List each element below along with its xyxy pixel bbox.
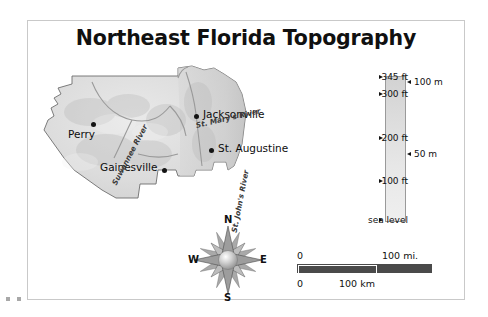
scale-km-end: 100 km [339,278,375,289]
legend-tickmark-300ft [379,92,383,96]
scale-km-start: 0 [297,278,303,289]
city-label-perry: Perry [68,128,95,140]
compass-star [194,226,262,294]
legend-tickmark-345ft [379,75,383,79]
scale-miles-start: 0 [297,250,303,261]
legend-tick-sea-level: sea level [368,215,408,225]
corner-dot-left [6,297,10,301]
legend-tick-345ft: 345 ft [381,72,408,82]
compass-label-east: E [260,254,267,265]
legend-tickmark-200ft [379,136,383,140]
legend-tick-200ft: 200 ft [381,133,408,143]
scale-bar-km [298,265,377,276]
compass-rose: N S E W [186,208,270,308]
city-dot-gainesville [162,168,167,173]
legend-tick-100m: 100 m [414,77,443,87]
legend-tickmark-100ft [379,179,383,183]
city-dot-jacksonville [194,114,199,119]
city-dot-st-augustine [209,148,214,153]
topographic-map: Perry Gainesville Jacksonville St. Augus… [28,58,278,218]
corner-dot-right [17,297,21,301]
city-dot-perry [91,122,96,127]
legend-tickmark-sea-level [379,218,383,222]
compass-label-south: S [224,292,231,303]
legend-tickmark-50m [407,152,411,156]
page-title: Northeast Florida Topography [27,26,465,50]
legend-tick-300ft: 300 ft [381,89,408,99]
compass-label-west: W [188,254,199,265]
scale-miles-end: 100 mi. [382,250,418,261]
compass-label-north: N [224,214,232,225]
legend-tick-50m: 50 m [414,149,437,159]
legend-tick-100ft: 100 ft [381,176,408,186]
scale-bar: 0 100 mi. 0 100 km [290,248,450,296]
city-label-st-augustine: St. Augustine [218,142,288,154]
legend-tickmark-100m [407,80,411,84]
elevation-legend: 345 ft 300 ft 200 ft 100 ft sea level 10… [318,70,448,230]
map-figure: Northeast Florida Topography [0,0,488,317]
